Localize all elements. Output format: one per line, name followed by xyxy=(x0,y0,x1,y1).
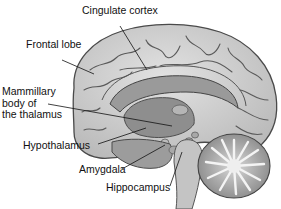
label-mammillary-body: Mammillary body of the thalamus xyxy=(2,86,62,121)
label-frontal-lobe: Frontal lobe xyxy=(26,39,81,51)
label-cingulate-cortex: Cingulate cortex xyxy=(82,5,158,17)
brainstem xyxy=(174,140,202,209)
label-amygdala: Amygdala xyxy=(79,164,126,176)
brain-diagram: Cingulate cortex Frontal lobe Mammillary… xyxy=(0,0,281,209)
label-hypothalamus: Hypothalamus xyxy=(23,140,90,152)
label-hippocampus: Hippocampus xyxy=(106,182,170,194)
